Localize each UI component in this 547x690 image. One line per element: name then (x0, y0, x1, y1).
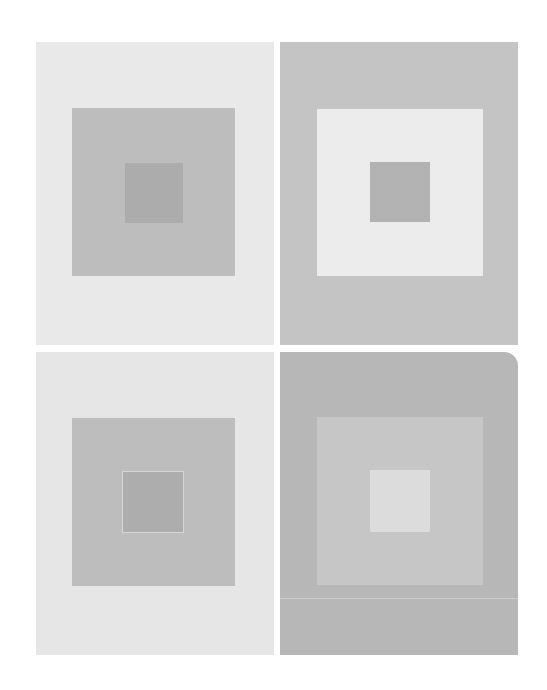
inner-square (370, 470, 430, 532)
inner-square (125, 163, 183, 223)
panel-bottom-left (36, 352, 274, 655)
panel-top-right (280, 42, 518, 345)
panel-top-left (36, 42, 274, 345)
panel-bottom-right (280, 352, 518, 655)
fold-line (280, 598, 518, 599)
inner-square (123, 472, 183, 532)
inner-square (370, 162, 430, 222)
